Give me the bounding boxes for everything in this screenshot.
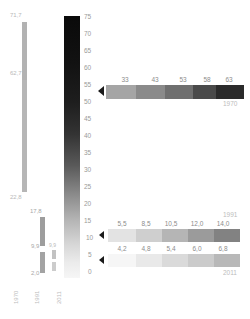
range-bar-1991-lower xyxy=(40,252,45,273)
axis-tick-35: 35 xyxy=(84,149,91,156)
segment-value-1991-4: 12,0 xyxy=(184,220,210,227)
segment-1970-2 xyxy=(136,85,165,99)
segmented-bar-year-2011: 2011 xyxy=(223,269,237,276)
segment-1970-4 xyxy=(193,85,216,99)
segmented-bar-2011 xyxy=(108,254,240,267)
segment-1991-3 xyxy=(162,229,188,242)
segment-value-2011-3: 5,4 xyxy=(158,245,184,252)
axis-tick-0: 0 xyxy=(88,268,92,275)
segment-1970-3 xyxy=(165,85,193,99)
segment-value-2011-1: 4,2 xyxy=(110,245,134,252)
segment-value-1991-5: 14,0 xyxy=(210,220,236,227)
range-bar-bottom-label-1970: 62,7 xyxy=(10,70,22,76)
segment-value-1991-3: 10,5 xyxy=(158,220,184,227)
axis-tick-75: 75 xyxy=(84,13,91,20)
segment-value-1970-5: 63 xyxy=(216,76,242,83)
segment-value-1970-3: 53 xyxy=(170,76,196,83)
pointer-marker-2011 xyxy=(99,256,104,264)
segment-1991-1 xyxy=(108,229,136,242)
color-scale-bar xyxy=(64,16,80,278)
pointer-marker-1991 xyxy=(99,231,104,239)
axis-tick-50: 50 xyxy=(84,98,91,105)
axis-tick-30: 30 xyxy=(84,166,91,173)
axis-tick-15: 15 xyxy=(84,217,91,224)
segment-1991-4 xyxy=(188,229,214,242)
range-bar-baseline-label-1991: 2,0 xyxy=(31,270,39,276)
segmented-bar-1970 xyxy=(106,85,244,99)
pointer-marker-1970 xyxy=(98,86,104,96)
x-axis-label-1970: 1970 xyxy=(13,291,19,304)
axis-tick-20: 20 xyxy=(84,200,91,207)
axis-tick-40: 40 xyxy=(84,132,91,139)
range-bar-1970 xyxy=(22,22,27,80)
segment-value-2011-5: 6,8 xyxy=(210,245,236,252)
segment-value-1970-2: 43 xyxy=(142,76,168,83)
segment-1970-5 xyxy=(216,85,244,99)
axis-tick-45: 45 xyxy=(84,115,91,122)
segment-value-1970-1: 33 xyxy=(112,76,138,83)
range-bar-1991 xyxy=(40,217,45,246)
segment-2011-1 xyxy=(108,254,136,267)
segment-2011-4 xyxy=(188,254,214,267)
segment-value-2011-2: 4,8 xyxy=(134,245,158,252)
range-bar-2011-lower xyxy=(52,262,56,271)
range-bar-top-label-1991: 17,8 xyxy=(30,208,42,214)
segment-2011-2 xyxy=(136,254,162,267)
chart-canvas: 71,7 62,7 22,8 17,8 9,9 2,0 9,9 1970 199… xyxy=(0,0,250,319)
range-bar-extra-label: 22,8 xyxy=(10,194,22,200)
segment-1991-5 xyxy=(214,229,240,242)
axis-tick-10: 10 xyxy=(86,234,93,241)
axis-tick-70: 70 xyxy=(84,30,91,37)
segmented-bar-year-1970: 1970 xyxy=(223,100,237,107)
axis-tick-55: 55 xyxy=(84,81,91,88)
axis-tick-60: 60 xyxy=(84,64,91,71)
segment-value-2011-4: 6,0 xyxy=(184,245,210,252)
x-axis-label-1991: 1991 xyxy=(34,291,40,304)
segment-2011-5 xyxy=(214,254,240,267)
axis-tick-5: 5 xyxy=(88,251,92,258)
segmented-bar-1991 xyxy=(108,229,240,242)
x-axis-label-2011: 2011 xyxy=(56,291,62,304)
segment-2011-3 xyxy=(162,254,188,267)
range-bar-top-label-2011: 9,9 xyxy=(49,242,56,248)
segment-1970-1 xyxy=(106,85,136,99)
axis-tick-65: 65 xyxy=(84,47,91,54)
axis-tick-25: 25 xyxy=(84,183,91,190)
range-bar-top-label-1970: 71,7 xyxy=(10,12,22,18)
segment-value-1991-2: 8,5 xyxy=(134,220,158,227)
segment-value-1991-1: 5,5 xyxy=(110,220,134,227)
segment-1991-2 xyxy=(136,229,162,242)
range-bar-2011 xyxy=(52,250,56,259)
segmented-bar-year-1991: 1991 xyxy=(223,211,237,218)
range-bar-1970-lower xyxy=(22,80,27,192)
range-bar-bottom-label-1991: 9,9 xyxy=(31,243,39,249)
